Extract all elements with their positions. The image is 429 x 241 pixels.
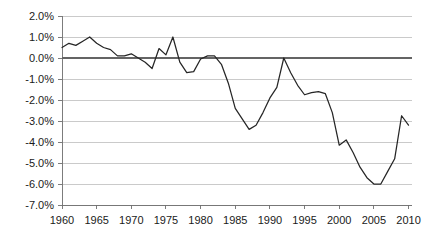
- y-tick-label: 0.0%: [29, 52, 54, 64]
- x-tick-label: 1985: [223, 214, 247, 226]
- y-tick-label: -5.0%: [25, 157, 54, 169]
- y-tick-labels-group: 2.0%1.0%0.0%-1.0%-2.0%-3.0%-4.0%-5.0%-6.…: [25, 10, 54, 211]
- y-axis-group: [58, 16, 62, 205]
- x-tick-label: 1990: [258, 214, 282, 226]
- x-tick-label: 1960: [50, 214, 74, 226]
- y-tick-label: 2.0%: [29, 10, 54, 22]
- x-tick-label: 1975: [154, 214, 178, 226]
- x-tick-label: 1965: [84, 214, 108, 226]
- x-tick-label: 2000: [327, 214, 351, 226]
- x-tick-labels-group: 1960196519701975198019851990199520002005…: [50, 214, 421, 226]
- y-tick-label: -6.0%: [25, 178, 54, 190]
- y-tick-label: -3.0%: [25, 115, 54, 127]
- x-tick-label: 2005: [362, 214, 386, 226]
- y-tick-label: -4.0%: [25, 136, 54, 148]
- y-tick-label: -2.0%: [25, 94, 54, 106]
- x-tick-label: 1970: [119, 214, 143, 226]
- x-tick-label: 2010: [396, 214, 420, 226]
- y-tick-label: -1.0%: [25, 73, 54, 85]
- x-axis-group: [62, 205, 412, 209]
- y-tick-label: -7.0%: [25, 199, 54, 211]
- y-tick-label: 1.0%: [29, 31, 54, 43]
- line-chart: 2.0%1.0%0.0%-1.0%-2.0%-3.0%-4.0%-5.0%-6.…: [0, 0, 429, 241]
- x-tick-label: 1995: [292, 214, 316, 226]
- x-tick-label: 1980: [188, 214, 212, 226]
- chart-canvas: 2.0%1.0%0.0%-1.0%-2.0%-3.0%-4.0%-5.0%-6.…: [0, 0, 429, 241]
